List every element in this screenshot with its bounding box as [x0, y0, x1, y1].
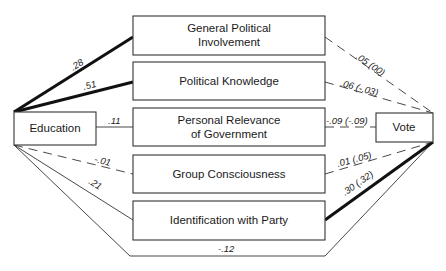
- node-vote: Vote: [376, 113, 433, 142]
- coef-education-political-knowledge: .51: [82, 78, 97, 92]
- node-general-political-involvement-label-line1: General Political: [187, 22, 271, 34]
- node-group-consciousness: Group Consciousness: [133, 155, 325, 193]
- node-vote-label: Vote: [392, 121, 415, 133]
- node-education: Education: [14, 112, 96, 145]
- coef-general-political-involvement-vote: .05 (00): [354, 51, 387, 78]
- path-diagram: Education Vote General Political Involve…: [0, 0, 446, 271]
- coef-identification-with-party-vote: .30 (.32): [340, 168, 375, 197]
- path-education-to-identification-with-party: [14, 145, 133, 220]
- path-identification-with-party-to-vote: [325, 142, 433, 220]
- coef-personal-relevance-vote: -.09 (-.09): [326, 115, 368, 126]
- node-political-knowledge-label: Political Knowledge: [179, 75, 279, 87]
- coef-political-knowledge-vote: .06 (-.03): [339, 77, 379, 98]
- node-personal-relevance-label-line2: of Government: [191, 128, 268, 140]
- node-identification-with-party-label: Identification with Party: [170, 214, 289, 226]
- path-education-to-group-consciousness: [14, 145, 133, 174]
- path-education-to-political-knowledge: [14, 82, 133, 112]
- node-group-consciousness-label: Group Consciousness: [172, 168, 285, 180]
- node-identification-with-party: Identification with Party: [133, 201, 325, 240]
- coef-education-vote-direct: -.12: [218, 243, 235, 254]
- node-general-political-involvement-label-line2: Involvement: [198, 36, 261, 48]
- coef-education-group-consciousness: -.01: [94, 153, 113, 168]
- node-political-knowledge: Political Knowledge: [133, 62, 325, 100]
- node-personal-relevance-of-government: Personal Relevance of Government: [133, 108, 325, 146]
- coef-education-personal-relevance: .11: [108, 115, 121, 126]
- coef-group-consciousness-vote: .01 (.05): [336, 149, 373, 169]
- coef-education-identification-with-party: .21: [87, 175, 104, 191]
- node-education-label: Education: [29, 122, 80, 134]
- path-education-to-general-political-involvement: [14, 37, 133, 112]
- node-general-political-involvement: General Political Involvement: [133, 16, 325, 55]
- coef-education-general-political-involvement: .28: [68, 56, 86, 73]
- node-personal-relevance-label-line1: Personal Relevance: [178, 114, 281, 126]
